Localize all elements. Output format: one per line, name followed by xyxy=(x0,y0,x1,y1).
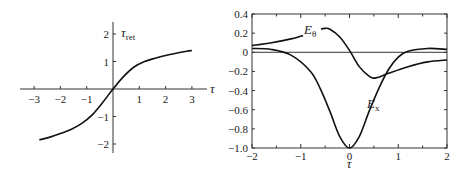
right-x-tick-label: 1 xyxy=(396,150,402,162)
right-y-tick-label: −1.0 xyxy=(228,142,248,154)
right-y-tick-label: −0.6 xyxy=(228,104,248,116)
left-chart: −3−2−112321−1−2τretτ xyxy=(20,22,216,153)
left-y-tick-label: 2 xyxy=(104,28,110,40)
right-y-tick-label: 0.4 xyxy=(234,8,248,20)
left-y-tick-label: −2 xyxy=(97,138,109,150)
left-x-tick-label: 1 xyxy=(137,93,143,105)
right-y-tick-label: −0.2 xyxy=(228,65,248,77)
left-y-axis-label: τret xyxy=(121,25,136,42)
right-y-tick-label: −0.8 xyxy=(228,123,248,135)
left-x-tick-label: −1 xyxy=(81,93,93,105)
left-x-tick-label: 3 xyxy=(189,93,195,105)
right-x-tick-label: 2 xyxy=(444,150,450,162)
right-y-tick-label: 0 xyxy=(243,46,249,58)
right-plot-frame xyxy=(252,14,447,148)
left-y-tick-label: 1 xyxy=(104,56,110,68)
right-x-tick-label: −1 xyxy=(295,150,307,162)
right-y-tick-label: −0.4 xyxy=(228,85,248,97)
left-x-tick-label: 2 xyxy=(163,93,169,105)
left-x-tick-label: −3 xyxy=(28,93,40,105)
left-x-tick-label: −2 xyxy=(55,93,67,105)
e-theta-curve xyxy=(252,28,447,78)
figure: −3−2−112321−1−2τretτ−2−10120.40.20−0.2−0… xyxy=(0,0,464,179)
right-chart: −2−10120.40.20−0.2−0.4−0.6−0.8−1.0EθExτ xyxy=(228,8,450,171)
e-x-label: Ex xyxy=(366,96,380,113)
right-y-tick-label: 0.2 xyxy=(234,27,248,39)
left-y-tick-label: −1 xyxy=(97,111,109,123)
left-x-axis-label: τ xyxy=(210,81,216,96)
